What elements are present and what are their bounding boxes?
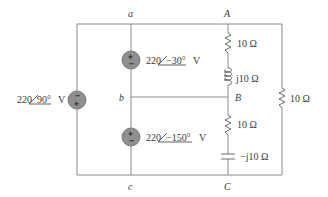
resistor-icon bbox=[225, 33, 231, 53]
voltage-source-left: − + 220 90° V bbox=[17, 91, 86, 109]
impedance-label: j10 Ω bbox=[235, 73, 259, 84]
node-label-a: a bbox=[128, 8, 133, 19]
node-label-B: B bbox=[235, 92, 241, 103]
source-unit: V bbox=[58, 94, 66, 105]
impedance-label: 10 Ω bbox=[290, 93, 310, 104]
source-angle: 90° bbox=[37, 94, 51, 105]
resistor-icon bbox=[279, 88, 285, 108]
polarity-minus-icon: − bbox=[75, 92, 81, 100]
source-unit: V bbox=[193, 55, 201, 66]
inductor-AB: j10 Ω bbox=[224, 68, 258, 85]
impedance-label: 10 Ω bbox=[237, 38, 257, 49]
resistor-AC: 10 Ω bbox=[279, 88, 310, 108]
polarity-minus-icon: − bbox=[129, 137, 135, 145]
node-label-b: b bbox=[119, 92, 124, 103]
polarity-minus-icon: − bbox=[129, 60, 135, 68]
resistor-AB: 10 Ω bbox=[225, 33, 257, 53]
resistor-BC: 10 Ω bbox=[225, 115, 257, 135]
impedance-label: −j10 Ω bbox=[240, 151, 268, 162]
source-angle: −150° bbox=[166, 132, 191, 143]
resistor-icon bbox=[225, 115, 231, 135]
source-angle: −30° bbox=[166, 55, 186, 66]
node-label-C: C bbox=[224, 181, 231, 192]
voltage-source-lower-middle: + − 220 −150° V bbox=[122, 128, 207, 146]
circuit-diagram: a b c A B C − + 220 90° V + − 220 −30° V… bbox=[0, 0, 328, 197]
inductor-loops-icon bbox=[225, 70, 228, 80]
voltage-source-upper-middle: + − 220 −30° V bbox=[122, 51, 201, 69]
impedance-label: 10 Ω bbox=[237, 119, 257, 130]
polarity-plus-icon: + bbox=[74, 100, 80, 108]
node-label-A: A bbox=[223, 8, 231, 19]
node-label-c: c bbox=[128, 181, 133, 192]
source-unit: V bbox=[199, 132, 207, 143]
